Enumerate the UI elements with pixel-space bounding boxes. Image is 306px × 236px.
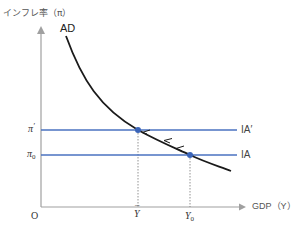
ia-label: IA [241, 150, 250, 160]
y-zero-sub: 0 [191, 215, 195, 223]
movement-arrow-icon [142, 130, 172, 143]
ia-prime-label: IA′ [241, 125, 252, 135]
movement-arrow-icon [176, 146, 184, 151]
x-axis-arrow-icon [239, 204, 246, 211]
ad-label: AD [60, 23, 75, 34]
pi-zero-tick-label: π0 [27, 149, 36, 159]
pi-zero-sub: 0 [32, 153, 36, 161]
pi-prime-tick-label: π′ [28, 124, 35, 134]
y-axis-label: インフレ率（π） [3, 9, 71, 18]
y-axis-arrow-icon [37, 26, 45, 34]
equilibrium-dot-initial [187, 152, 193, 158]
equilibrium-dot-new [135, 127, 141, 133]
y-bar-accent: ¯ [135, 205, 140, 214]
y-bar-tick-label: ¯Y [134, 209, 140, 219]
origin-label: O [31, 211, 38, 221]
y-zero-tick-label: Y0 [185, 211, 194, 221]
ad-curve [66, 36, 231, 171]
x-axis-label: GDP（Y） [252, 202, 296, 211]
y-zero-symbol: Y [185, 210, 191, 221]
pi-prime-mark: ′ [33, 122, 35, 131]
